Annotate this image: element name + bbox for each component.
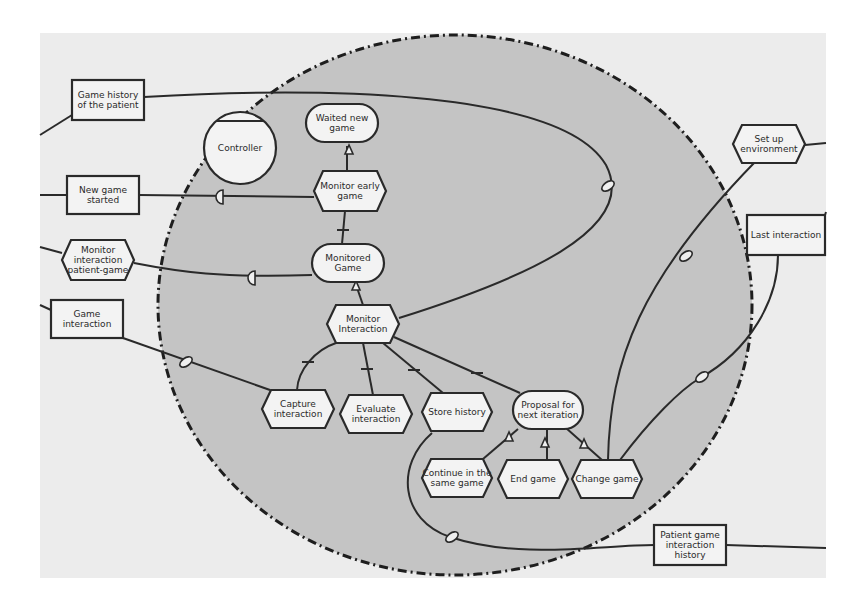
node-label: End game xyxy=(510,474,556,484)
resource-last-interaction[interactable]: Last interaction xyxy=(747,215,825,255)
node-label: interaction xyxy=(666,540,715,550)
node-label: Monitor early xyxy=(320,181,380,191)
agent-controller[interactable]: Controller xyxy=(204,112,276,184)
node-label: Last interaction xyxy=(751,230,821,240)
node-label: same game xyxy=(431,478,484,488)
goal-proposal-next-iteration[interactable]: Proposal fornext iteration xyxy=(513,391,583,429)
node-label: Evaluate xyxy=(356,404,396,414)
node-label: Monitored xyxy=(325,253,370,263)
task-store-history[interactable]: Store history xyxy=(422,393,492,431)
node-label: next iteration xyxy=(518,410,579,420)
node-label: history xyxy=(675,550,707,560)
node-label: Waited new xyxy=(316,113,369,123)
node-label: Proposal for xyxy=(521,400,575,410)
task-change-game[interactable]: Change game xyxy=(572,460,642,498)
node-label: interaction xyxy=(274,409,323,419)
node-label: game xyxy=(337,191,363,201)
node-label: Interaction xyxy=(339,324,388,334)
task-monitor-interaction[interactable]: MonitorInteraction xyxy=(327,305,399,343)
node-label: Game xyxy=(74,309,101,319)
task-set-up-environment[interactable]: Set upenvironment xyxy=(733,125,805,163)
node-label: Monitor xyxy=(81,245,116,255)
node-label: Continue in the xyxy=(422,468,492,478)
node-label: started xyxy=(87,195,119,205)
resource-game-interaction[interactable]: Gameinteraction xyxy=(51,300,123,338)
task-continue-same-game[interactable]: Continue in thesame game xyxy=(422,459,492,497)
istar-diagram: ControllerGame historyof the patientNew … xyxy=(0,0,861,605)
node-label: environment xyxy=(740,144,798,154)
node-label: Patient game xyxy=(660,530,720,540)
node-label: interaction xyxy=(352,414,401,424)
resource-new-game-started[interactable]: New gamestarted xyxy=(67,176,139,214)
dependency-d-icon xyxy=(216,190,223,204)
goal-waited-new-game[interactable]: Waited newgame xyxy=(306,104,378,142)
task-monitor-early-game[interactable]: Monitor earlygame xyxy=(314,171,386,211)
task-monitor-interaction-patient-game[interactable]: Monitorinteractionpatient-game xyxy=(62,240,134,280)
node-label: Game xyxy=(335,263,362,273)
node-label: of the patient xyxy=(77,100,139,110)
resource-patient-game-history[interactable]: Patient gameinteractionhistory xyxy=(654,525,726,565)
goal-monitored-game[interactable]: MonitoredGame xyxy=(312,244,384,282)
node-label: interaction xyxy=(74,255,123,265)
node-label: Capture xyxy=(280,399,316,409)
node-label: game xyxy=(329,123,355,133)
node-label: patient-game xyxy=(68,265,129,275)
node-label: Change game xyxy=(576,474,639,484)
node-label: interaction xyxy=(63,319,112,329)
node-label: Store history xyxy=(428,407,486,417)
resource-game-history[interactable]: Game historyof the patient xyxy=(72,80,144,120)
node-label: Controller xyxy=(218,143,263,153)
task-end-game[interactable]: End game xyxy=(498,460,568,498)
node-label: Set up xyxy=(754,134,783,144)
node-label: Game history xyxy=(78,90,139,100)
task-evaluate-interaction[interactable]: Evaluateinteraction xyxy=(340,395,412,433)
node-label: Monitor xyxy=(346,314,381,324)
node-label: New game xyxy=(79,185,127,195)
task-capture-interaction[interactable]: Captureinteraction xyxy=(262,390,334,428)
dependency-d-icon xyxy=(248,271,255,285)
